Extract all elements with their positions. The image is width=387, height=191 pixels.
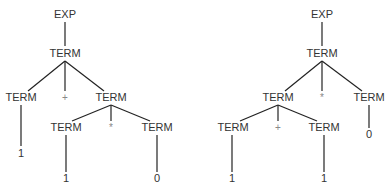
leaf-node: 1 [321, 172, 327, 184]
parse-tree-diagram: EXPTERMTERM+TERM1TERM*TERM10 EXPTERMTERM… [0, 0, 387, 191]
operator-node: + [275, 122, 281, 133]
tree-edge [278, 105, 317, 121]
nonterminal-node: EXP [54, 8, 76, 20]
nonterminal-node: TERM [49, 47, 80, 59]
nonterminal-node: TERM [217, 121, 248, 133]
parse-tree-right: EXPTERMTERM*TERM0TERM+TERM11 [217, 8, 384, 184]
operator-node: * [320, 92, 324, 103]
leaf-node: 0 [366, 128, 372, 140]
leaf-node: 0 [154, 172, 160, 184]
parse-tree-left: EXPTERMTERM+TERM1TERM*TERM10 [5, 8, 172, 184]
nonterminal-node: EXP [311, 8, 333, 20]
tree-edge [65, 61, 104, 91]
nonterminal-node: TERM [308, 121, 339, 133]
tree-edge [240, 105, 278, 121]
operator-node: + [62, 92, 68, 103]
leaf-node: 1 [18, 147, 24, 159]
tree-edge [111, 105, 150, 121]
nonterminal-node: TERM [141, 121, 172, 133]
nonterminal-node: TERM [5, 91, 36, 103]
tree-edge [28, 61, 65, 91]
leaf-node: 1 [63, 172, 69, 184]
tree-edge [322, 61, 362, 91]
nonterminal-node: TERM [50, 121, 81, 133]
nonterminal-node: TERM [306, 47, 337, 59]
tree-edge [285, 61, 322, 91]
nonterminal-node: TERM [353, 91, 384, 103]
leaf-node: 1 [229, 172, 235, 184]
tree-edge [72, 105, 111, 121]
nonterminal-node: TERM [262, 91, 293, 103]
operator-node: * [109, 122, 113, 133]
nonterminal-node: TERM [95, 91, 126, 103]
